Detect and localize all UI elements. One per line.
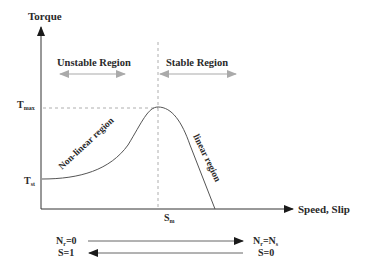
nonlinear-region-label: Non-linear region <box>57 115 117 172</box>
unstable-region-label: Unstable Region <box>57 57 131 68</box>
stable-region-label: Stable Region <box>166 57 228 68</box>
tst-label: Tst <box>24 175 35 187</box>
s-zero-label: S=0 <box>258 247 274 258</box>
s-one-label: S=1 <box>58 247 74 258</box>
linear-region-label: linear region <box>191 132 223 183</box>
nr-zero-label: Nr=0 <box>56 235 77 247</box>
nr-ns-label: Nr=Ns <box>253 235 279 247</box>
torque-speed-diagram: Torque Speed, Slip Tmax Tst Sm Unstable … <box>0 0 369 274</box>
tmax-label: Tmax <box>17 99 35 111</box>
sm-label: Sm <box>164 212 175 224</box>
y-axis-label: Torque <box>28 10 62 22</box>
x-axis-label: Speed, Slip <box>298 203 350 215</box>
